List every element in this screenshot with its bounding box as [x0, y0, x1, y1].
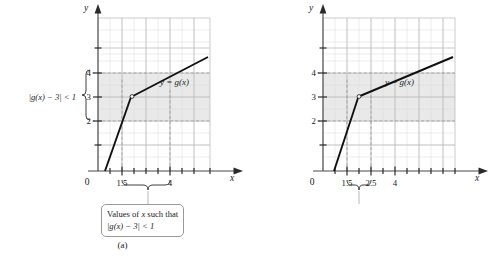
figure-container: 0 |g(x) − 3| < 1 4 3 2 1.5 4 y x y = g(x…	[0, 0, 490, 260]
x-tick-label-1p5-a: 1.5	[117, 178, 129, 188]
panel-b: 0 4 3 2 1.5 2.5 4 y x y = g(x) Symmetric…	[245, 0, 490, 260]
y-tick-label-3-b: 3	[312, 92, 317, 102]
y-axis-label-b: y	[308, 3, 314, 13]
callout-a-line1: Values of x such that	[107, 208, 178, 220]
y-tick-label-4-a: 4	[87, 68, 92, 78]
x-tick-label-2p5-b: 2.5	[366, 178, 378, 188]
y-tick-label-3-a: 3	[87, 92, 92, 102]
y-brace-label-a: |g(x) − 3| < 1	[29, 92, 76, 102]
x-axis	[88, 168, 243, 175]
curve-label-a: y = g(x)	[159, 77, 189, 87]
panel-b-plot: 0 4 3 2 1.5 2.5 4 y x y = g(x)	[245, 0, 490, 260]
origin-label-b: 0	[310, 177, 315, 187]
panel-a-caption: (a)	[0, 240, 245, 250]
origin-label-a: 0	[85, 177, 90, 187]
x-axis-b	[313, 168, 488, 175]
callout-box-a: Values of x such that |g(x) − 3| < 1	[101, 204, 184, 237]
y-tick-label-2-b: 2	[312, 116, 316, 126]
y-tick-label-2-a: 2	[87, 116, 91, 126]
x-interval-brace	[122, 180, 170, 190]
curve-label-b: y = g(x)	[384, 77, 414, 87]
panel-a: 0 |g(x) − 3| < 1 4 3 2 1.5 4 y x y = g(x…	[0, 0, 245, 260]
callout-a-line2: |g(x) − 3| < 1	[107, 220, 178, 232]
y-tick-label-4-b: 4	[312, 68, 317, 78]
x-tick-label-4-b: 4	[393, 178, 398, 188]
x-tick-label-1p5-b: 1.5	[342, 178, 354, 188]
x-tick-label-4-a: 4	[168, 178, 173, 188]
x-axis-label-a: x	[229, 173, 235, 183]
x-axis-label-b: x	[474, 173, 480, 183]
y-axis-label-a: y	[83, 3, 89, 13]
